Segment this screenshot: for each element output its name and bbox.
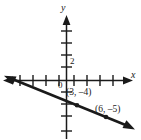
plotted-line-segment bbox=[11, 79, 128, 127]
x-tick-label-2: 2 bbox=[70, 57, 75, 66]
plotted-line bbox=[4, 76, 135, 130]
data-point-marker bbox=[75, 103, 80, 108]
origin-label: 0 bbox=[58, 81, 63, 90]
point-label-1: (3, –4) bbox=[66, 88, 91, 98]
graph-figure: y x 0 2 (3, –4) (6, –5) bbox=[0, 0, 141, 140]
data-point-marker bbox=[104, 115, 109, 120]
y-axis bbox=[63, 15, 71, 139]
graph-canvas bbox=[0, 0, 141, 140]
point-label-2: (6, –5) bbox=[95, 105, 120, 115]
y-axis-label: y bbox=[61, 3, 65, 13]
x-axis-label: x bbox=[131, 70, 135, 80]
plotted-line-arrowhead-right-icon bbox=[123, 120, 136, 129]
y-axis-arrowhead-icon bbox=[63, 15, 71, 25]
